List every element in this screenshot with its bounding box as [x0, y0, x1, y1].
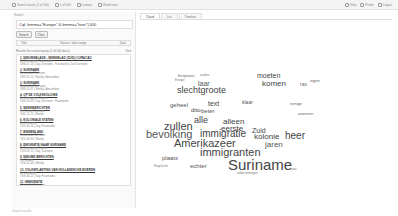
query-input[interactable]: Cql: lemma="Europe" & lemma="heer"] 400 — [16, 20, 133, 29]
cloud-word[interactable]: dito — [191, 107, 201, 113]
result-item[interactable]: 9. NIEUWE BERICHTENHet Nieuws1916-02-04 … — [20, 155, 127, 165]
toolbar-item-wordcloud[interactable]: Wordcloud — [98, 3, 117, 7]
cloud-word[interactable]: heer — [285, 131, 305, 141]
column-title[interactable]: Title — [21, 41, 27, 45]
cloud-word[interactable]: eigen — [310, 79, 320, 83]
toolbar-item-lemma[interactable]: Lemma — [77, 3, 92, 7]
cloud-word[interactable]: eenige — [290, 102, 302, 106]
search-panel: Search Cql: lemma="Europe" & lemma="heer… — [12, 12, 136, 208]
profile-button[interactable]: Profile — [360, 3, 374, 7]
result-source: Nieuwsblad Suriname — [20, 184, 127, 186]
toolbar: Search words (1 of 500) 1 of 500 Lemma W… — [0, 0, 398, 10]
cloud-word[interactable]: slechtgroote — [177, 86, 226, 95]
cloud-word[interactable]: beter — [201, 108, 215, 114]
column-date[interactable]: Date — [120, 41, 126, 45]
results-list[interactable]: 1. NIEUWSBLADE - WEEKBLAD (ZUID) CURACAO… — [16, 54, 131, 186]
result-item[interactable]: 6. KOLONIALE STATENDe Surinamer1910-04-1… — [20, 118, 127, 128]
result-meta: 1889-10-02 | Weekly | Amsterdam — [20, 88, 127, 91]
column-header: Title Source / date range Date — [16, 40, 131, 46]
result-item[interactable]: 1. NIEUWSBLADE - WEEKBLAD (ZUID) CURACAO… — [20, 56, 127, 66]
result-meta: 1916-02-04 | Weekly — [20, 162, 127, 165]
cloud-word[interactable]: Engelsche — [154, 165, 168, 168]
cloud-word[interactable]: echter — [190, 163, 207, 169]
result-item[interactable]: 3. SURINAMENieuwsblad Suriname1889-10-02… — [20, 81, 127, 91]
result-meta: 1913-09-12 | Dag. Suriname — [20, 150, 127, 153]
cloud-word[interactable]: klaar — [242, 100, 253, 105]
dropdown-icon — [55, 3, 59, 7]
status-bar: Search results — [12, 209, 31, 213]
result-meta: 1887-05-12 | Weekly | Amsterdam — [20, 76, 127, 79]
close-icon — [378, 3, 382, 7]
result-meta: 1912-06-30 | Weekly — [20, 138, 127, 141]
clear-button[interactable]: Clear — [35, 31, 48, 38]
toolbar-item-search[interactable]: Search words (1 of 500) — [12, 3, 49, 7]
toolbar-item-range[interactable]: 1 of 500 — [55, 3, 71, 7]
result-item[interactable]: 7. BINNENLANDNieuwsblad Suriname1912-06-… — [20, 130, 127, 140]
result-item[interactable]: 11. IMMIGRATIENieuwsblad Suriname1921-05… — [20, 180, 127, 186]
info-icon — [345, 3, 349, 7]
result-meta: 1896-07-14 | Dag. Suriname - Paramaribo … — [20, 63, 127, 66]
result-item[interactable]: 10. VOLKSPLANTING VAN HOLLANDSCHE BOEREN… — [20, 168, 127, 178]
home-icon — [12, 3, 16, 7]
grid-icon — [98, 3, 102, 7]
result-item[interactable]: 5. WEEKBERICHTENHet Nieuws Suriname1905-… — [20, 106, 127, 116]
help-button[interactable]: Help — [345, 3, 356, 7]
section-label: Search — [12, 12, 135, 18]
word-cloud: EuropeanenEuropeaardenlaarmoetenkomenras… — [140, 20, 392, 210]
cloud-word[interactable]: ondernemingen — [237, 172, 258, 175]
cloud-word[interactable]: text — [208, 100, 219, 107]
cloud-word[interactable]: plaats — [162, 155, 178, 161]
cloud-word[interactable]: wanneer — [298, 112, 313, 116]
cloud-word[interactable]: Suriname — [228, 157, 292, 172]
result-meta: 1902-03-08 | Dag. Suriname - Paramaribo — [20, 100, 127, 103]
toolbar-right: Help Profile Logout — [345, 0, 392, 10]
results-header: Results for current query (1 of 500 docs… — [16, 49, 131, 53]
result-item[interactable]: 2. SURINAMENieuwsblad Suriname1887-05-12… — [20, 68, 127, 78]
cloud-word[interactable]: aarden — [200, 74, 209, 77]
cloud-word[interactable]: alle — [194, 116, 208, 125]
cloud-word[interactable]: geheel — [170, 102, 188, 108]
cloud-word[interactable]: ras — [300, 82, 307, 87]
query-buttons: Search Clear — [16, 31, 131, 38]
cloud-word[interactable]: jaren — [265, 141, 283, 149]
logout-button[interactable]: Logout — [378, 3, 392, 7]
search-button[interactable]: Search — [16, 31, 32, 38]
cloud-word[interactable]: staat — [290, 168, 297, 171]
cloud-word[interactable]: moeten — [257, 72, 280, 79]
cloud-word[interactable]: komen — [262, 80, 286, 88]
results-count: Results for current query (1 of 500 docs… — [16, 49, 70, 53]
result-item[interactable]: 8. EMIGRATIE NAAR SURINAMEDe Surinaamse … — [20, 143, 127, 153]
user-icon — [360, 3, 364, 7]
sort-button[interactable]: Sort — [125, 49, 131, 53]
result-meta: 1910-04-16 | Dag. Paramaribo — [20, 125, 127, 128]
result-meta: 1919-08-22 | Dag. Paramaribo — [20, 175, 127, 178]
list-icon — [77, 3, 81, 7]
result-item[interactable]: 4. OP DE VOLKSKOLONIEDe Surinaamse Coura… — [20, 93, 127, 103]
result-meta: 1905-11-21 | Weekly — [20, 113, 127, 116]
column-source[interactable]: Source / date range — [60, 41, 86, 45]
cloud-word[interactable]: Europe — [175, 79, 185, 82]
